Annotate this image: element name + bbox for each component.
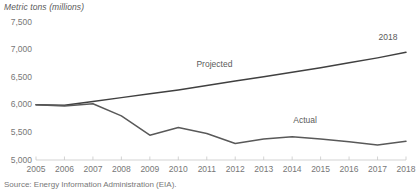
data-series-layer <box>36 52 406 145</box>
series-line-projected <box>36 52 406 105</box>
source-note: Source: Energy Information Administratio… <box>4 180 177 189</box>
series-line-actual <box>36 104 406 145</box>
x-axis <box>36 157 406 161</box>
